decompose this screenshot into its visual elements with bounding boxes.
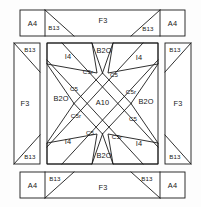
- label-spike-c5r-left: C5r: [71, 112, 81, 119]
- label-top-b13-left: B13: [48, 24, 60, 31]
- label-right-b13-bottom: B13: [169, 153, 181, 160]
- label-left-b13-top: B13: [24, 46, 36, 53]
- label-right-b13-top: B13: [169, 46, 181, 53]
- label-spike-c5-right: C5: [129, 115, 138, 122]
- label-spike-c5-bottom: C5: [86, 129, 95, 136]
- label-corner-i4-br: I4: [136, 139, 142, 148]
- label-corner-i4-tl: I4: [65, 52, 71, 61]
- label-right-f3: F3: [174, 99, 183, 108]
- label-spike-c5-topright: C5: [110, 71, 119, 78]
- quilt-block-diagram: A4 B13 F3 B13 A4 B13 F3 B13 B13 F3 B13: [0, 0, 201, 207]
- label-bottom-a4-left: A4: [28, 181, 37, 190]
- label-spike-c5-left: C5: [70, 85, 79, 92]
- left-border-strip: B13 F3 B13: [14, 43, 40, 164]
- label-center-a10: A10: [96, 98, 110, 107]
- label-bottom-b13-left: B13: [49, 175, 61, 182]
- label-top-b13-right: B13: [142, 25, 154, 32]
- bottom-border-strip: A4 B13 F3 B13 A4: [20, 172, 185, 198]
- label-top-a4-right: A4: [168, 19, 177, 28]
- label-point-b20-right: B2O: [138, 97, 153, 106]
- label-bottom-b13-right: B13: [141, 175, 153, 182]
- label-point-b20-bottom: B2O: [96, 151, 111, 160]
- label-top-f3: F3: [99, 16, 108, 25]
- right-border-strip: B13 F3 B13: [165, 43, 191, 164]
- label-point-b20-left: B2O: [53, 94, 68, 103]
- label-point-b20-top: B2O: [96, 46, 111, 55]
- label-spike-c5r-bottom: C5r: [112, 133, 122, 140]
- label-spike-c5r-top: C5r: [83, 68, 93, 75]
- label-corner-i4-tr: I4: [136, 53, 142, 62]
- label-bottom-f3: F3: [99, 183, 108, 192]
- label-bottom-a4-right: A4: [168, 181, 177, 190]
- label-left-f3: F3: [21, 99, 30, 108]
- label-corner-i4-bl: I4: [65, 137, 71, 146]
- top-border-strip: A4 B13 F3 B13 A4: [20, 10, 185, 36]
- label-spike-c5r-right: C5r: [126, 88, 136, 95]
- quilt-block-diagram-page: A4 B13 F3 B13 A4 B13 F3 B13 B13 F3 B13: [0, 0, 201, 207]
- label-left-b13-bottom: B13: [24, 153, 36, 160]
- label-top-a4-left: A4: [28, 19, 37, 28]
- center-star-block: A10 I4 I4 I4 I4 B2O B2O B2O B2O C5r C5 C…: [47, 43, 158, 164]
